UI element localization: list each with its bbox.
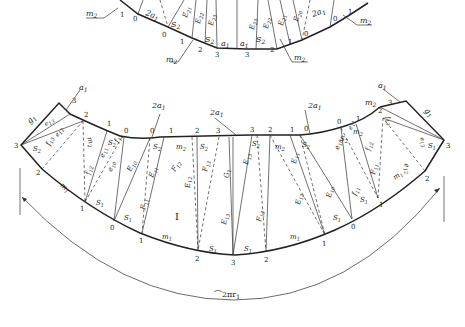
svg-text:S1: S1 xyxy=(333,214,341,223)
svg-text:1: 1 xyxy=(80,205,84,213)
svg-text:m1: m1 xyxy=(290,233,300,242)
svg-text:1: 1 xyxy=(180,38,184,46)
svg-text:2: 2 xyxy=(195,127,199,135)
main-pattern-labels: a1 a1 g1 g1 2a1 2a1 2a1 m2 m2 m2 m2 m2 m… xyxy=(14,81,450,300)
svg-text:2a1: 2a1 xyxy=(209,108,224,118)
svg-text:S2: S2 xyxy=(153,143,161,152)
svg-text:0: 0 xyxy=(133,15,137,23)
svg-text:S1: S1 xyxy=(244,245,252,254)
svg-text:E10: E10 xyxy=(325,185,336,200)
svg-text:e12: e12 xyxy=(53,125,66,138)
svg-text:0: 0 xyxy=(162,31,166,39)
svg-text:S2: S2 xyxy=(33,145,41,154)
svg-text:2: 2 xyxy=(378,107,382,115)
svg-text:0: 0 xyxy=(333,15,337,23)
svg-text:3: 3 xyxy=(388,99,392,107)
svg-text:a1: a1 xyxy=(378,81,387,91)
svg-text:E21: E21 xyxy=(181,5,193,19)
svg-text:g1: g1 xyxy=(25,113,38,126)
svg-text:S1: S1 xyxy=(96,199,104,208)
svg-text:E21: E21 xyxy=(277,14,288,28)
svg-text:S2: S2 xyxy=(256,35,265,45)
svg-text:E10: E10 xyxy=(125,158,139,174)
svg-text:g1: g1 xyxy=(422,106,435,119)
svg-text:F13: F13 xyxy=(201,160,212,174)
svg-text:a1: a1 xyxy=(240,39,249,49)
svg-text:2a1: 2a1 xyxy=(307,101,322,111)
svg-text:e11: e11 xyxy=(98,146,109,159)
svg-text:0: 0 xyxy=(304,125,308,133)
svg-text:E12: E12 xyxy=(184,177,193,190)
svg-text:3: 3 xyxy=(245,51,249,59)
svg-text:E23: E23 xyxy=(248,18,259,32)
svg-text:m2: m2 xyxy=(84,136,96,148)
svg-text:S1: S1 xyxy=(124,214,132,223)
svg-text:2: 2 xyxy=(36,169,40,177)
svg-text:m2: m2 xyxy=(275,143,285,152)
svg-text:e12: e12 xyxy=(401,162,412,175)
svg-text:2a1: 2a1 xyxy=(310,6,327,20)
svg-text:f12: f12 xyxy=(364,141,375,152)
svg-text:m1: m1 xyxy=(162,233,172,242)
svg-text:0: 0 xyxy=(110,224,114,232)
svg-text:E13: E13 xyxy=(220,213,231,227)
region-label: I xyxy=(175,211,179,222)
svg-text:1: 1 xyxy=(139,237,143,245)
svg-text:2a1: 2a1 xyxy=(151,101,166,111)
svg-text:1: 1 xyxy=(348,8,352,16)
svg-text:2: 2 xyxy=(270,46,274,54)
svg-text:S1: S1 xyxy=(209,245,217,254)
svg-text:3: 3 xyxy=(215,51,219,59)
svg-text:S2: S2 xyxy=(252,140,260,149)
svg-text:m2: m2 xyxy=(166,55,178,65)
arc-length-label: ⌒2πr1 xyxy=(214,290,240,300)
main-pattern xyxy=(20,89,444,300)
svg-text:E11: E11 xyxy=(147,165,160,180)
svg-text:a1: a1 xyxy=(221,39,230,49)
svg-text:1: 1 xyxy=(290,126,294,134)
svg-text:m2: m2 xyxy=(353,128,363,137)
svg-text:2: 2 xyxy=(264,256,268,264)
svg-text:F12: F12 xyxy=(169,159,183,174)
svg-text:m2: m2 xyxy=(365,98,377,108)
svg-text:S2: S2 xyxy=(171,20,180,30)
svg-text:1: 1 xyxy=(356,115,360,123)
svg-text:m2: m2 xyxy=(360,16,372,26)
main-top-edge xyxy=(70,107,380,138)
svg-text:E12: E12 xyxy=(294,193,305,207)
svg-text:m1: m1 xyxy=(392,169,405,182)
svg-text:a1: a1 xyxy=(79,83,88,93)
svg-text:S1: S1 xyxy=(360,196,368,205)
svg-text:3: 3 xyxy=(72,97,76,105)
svg-text:0: 0 xyxy=(304,30,308,38)
svg-text:F13: F13 xyxy=(255,210,266,224)
svg-text:3: 3 xyxy=(216,127,220,135)
svg-text:3: 3 xyxy=(14,142,18,150)
svg-text:E13: E13 xyxy=(242,153,253,167)
svg-text:3: 3 xyxy=(231,259,235,267)
svg-text:0: 0 xyxy=(150,127,154,135)
development-diagram: m2 m2 m2 m2 a1 a1 S2 S2 S2 2a1 2a1 E23 E… xyxy=(0,0,465,327)
svg-text:E22: E22 xyxy=(262,17,273,31)
main-bottom-edge xyxy=(42,169,425,255)
svg-text:m2: m2 xyxy=(86,9,98,19)
top-pattern xyxy=(86,0,372,62)
svg-text:e13: e13 xyxy=(43,115,56,128)
svg-text:2: 2 xyxy=(195,255,199,263)
svg-text:S1: S1 xyxy=(428,142,436,151)
svg-text:2: 2 xyxy=(84,111,88,119)
svg-text:0: 0 xyxy=(337,118,341,126)
svg-text:2: 2 xyxy=(268,126,272,134)
svg-text:f13: f13 xyxy=(44,136,56,148)
svg-text:1: 1 xyxy=(120,11,124,19)
svg-text:0: 0 xyxy=(124,127,128,135)
svg-text:G1: G1 xyxy=(223,169,232,178)
svg-text:1: 1 xyxy=(288,38,292,46)
svg-text:3: 3 xyxy=(250,126,254,134)
svg-text:f12: f12 xyxy=(84,165,95,176)
svg-text:E20: E20 xyxy=(292,9,304,24)
svg-text:1: 1 xyxy=(107,120,111,128)
svg-text:m2: m2 xyxy=(294,53,306,63)
svg-text:E22: E22 xyxy=(194,12,205,26)
svg-text:1: 1 xyxy=(322,240,326,248)
